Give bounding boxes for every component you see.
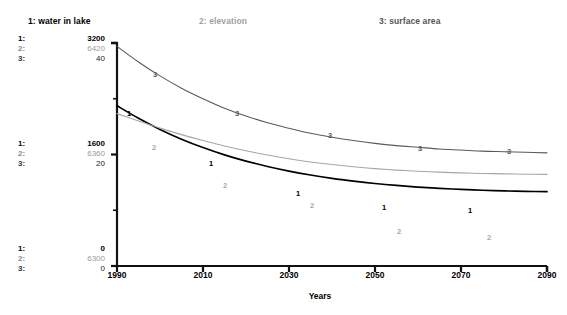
curve-marker-series-1: 1	[292, 189, 304, 198]
curve-marker-series-3: 3	[231, 109, 243, 118]
curve-marker-series-2: 2	[393, 227, 405, 236]
curve-marker-series-3: 3	[414, 144, 426, 153]
curve-marker-series-3: 3	[149, 70, 161, 79]
curve-marker-series-2: 2	[219, 181, 231, 190]
curve-marker-series-1: 1	[205, 159, 217, 168]
curve-marker-series-2: 2	[483, 233, 495, 242]
plot-area	[0, 0, 567, 315]
curve-marker-series-2: 2	[148, 143, 160, 152]
xaxis-tick-label-2070: 2070	[441, 270, 481, 280]
xaxis-tick-label-2050: 2050	[355, 270, 395, 280]
curve-marker-series-1: 1	[123, 109, 135, 118]
curve-marker-series-3: 3	[503, 147, 515, 156]
curve-marker-series-3: 3	[324, 131, 336, 140]
xaxis-tick-label-2090: 2090	[527, 270, 567, 280]
xaxis-tick-label-1990: 1990	[97, 270, 137, 280]
xaxis-tick-label-2010: 2010	[183, 270, 223, 280]
curve-series-2	[117, 114, 547, 175]
xaxis-tick-label-2030: 2030	[269, 270, 309, 280]
curve-marker-series-1: 1	[464, 206, 476, 215]
curve-series-1	[117, 106, 547, 192]
plot-svg	[0, 0, 567, 315]
chart-canvas: 1: water in lake 2: elevation 3: surface…	[0, 0, 567, 315]
curve-marker-series-1: 1	[378, 203, 390, 212]
xaxis-title: Years	[290, 291, 350, 301]
curve-marker-series-2: 2	[306, 201, 318, 210]
